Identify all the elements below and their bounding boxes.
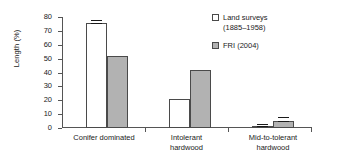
legend-swatch-filled-icon: [212, 42, 219, 49]
y-axis-title: Length (%): [12, 19, 21, 79]
x-tick-2: [228, 128, 229, 132]
y-tick-label-80: 80: [30, 12, 52, 21]
legend-item-fri: FRI (2004): [212, 41, 338, 51]
y-tick-60: 60: [58, 45, 62, 46]
y-tick-label-20: 20: [30, 95, 52, 104]
errorbar-conifer-land-surveys: [91, 20, 102, 25]
y-tick-label-40: 40: [30, 68, 52, 77]
y-tick-30: 30: [58, 86, 62, 87]
bar-conifer-land-surveys: [86, 23, 107, 128]
bar-intolerant-fri: [190, 70, 211, 128]
legend-label-land-surveys: Land surveys (1885–1958): [223, 13, 268, 33]
x-tick-1: [145, 128, 146, 132]
y-tick-label-60: 60: [30, 40, 52, 49]
x-label-intolerant-hardwood: Intolerant hardwood: [145, 133, 228, 153]
bar-conifer-fri: [107, 56, 128, 128]
x-axis-labels: Conifer dominated Intolerant hardwood Mi…: [62, 133, 312, 163]
errorbar-midtolerant-fri: [278, 117, 289, 122]
legend-label-fri: FRI (2004): [223, 41, 259, 51]
x-label-mid-to-tolerant-hardwood: Mid-to-tolerant hardwood: [228, 133, 318, 153]
y-tick-0: 0: [58, 128, 62, 129]
y-axis-line: [62, 17, 63, 128]
y-tick-50: 50: [58, 59, 62, 60]
y-tick-40: 40: [58, 73, 62, 74]
chart-legend: Land surveys (1885–1958) FRI (2004): [212, 13, 338, 59]
bar-chart-figure: Length (%) 80 70 60 50 40 30 20 10 0: [0, 0, 340, 164]
y-tick-label-30: 30: [30, 81, 52, 90]
bar-midtolerant-fri: [273, 121, 294, 128]
y-tick-label-50: 50: [30, 54, 52, 63]
y-tick-20: 20: [58, 100, 62, 101]
y-tick-80: 80: [58, 17, 62, 18]
y-tick-label-10: 10: [30, 109, 52, 118]
y-tick-label-70: 70: [30, 26, 52, 35]
y-tick-label-0: 0: [30, 123, 52, 132]
y-tick-10: 10: [58, 114, 62, 115]
y-tick-70: 70: [58, 31, 62, 32]
bar-intolerant-land-surveys: [169, 99, 190, 128]
x-tick-3: [311, 128, 312, 132]
errorbar-midtolerant-land-surveys: [257, 124, 268, 127]
x-label-conifer-dominated: Conifer dominated: [54, 133, 154, 143]
legend-swatch-open-icon: [212, 14, 219, 21]
legend-item-land-surveys: Land surveys (1885–1958): [212, 13, 338, 33]
